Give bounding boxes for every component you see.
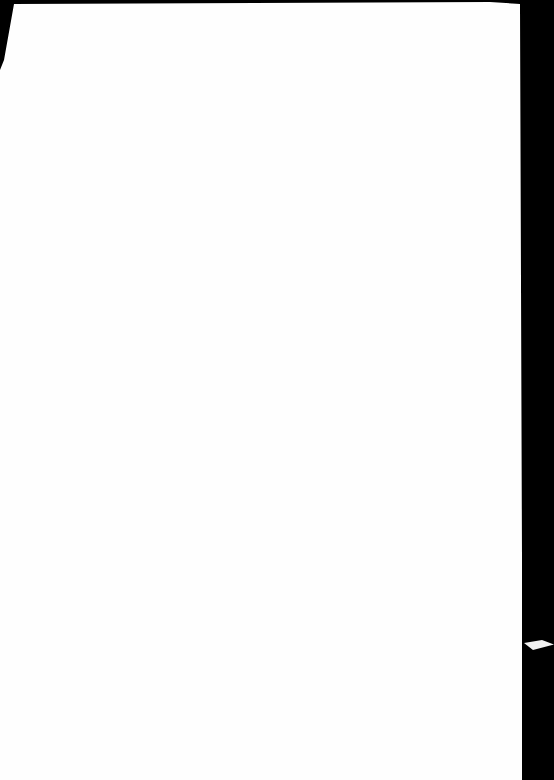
blank-page <box>0 0 522 780</box>
paper-fold <box>524 640 554 650</box>
